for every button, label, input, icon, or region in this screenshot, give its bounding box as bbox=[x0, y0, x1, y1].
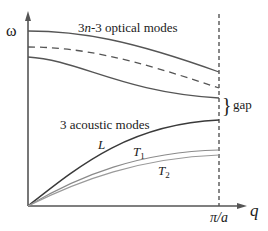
optical-branch-lower bbox=[28, 57, 219, 98]
acoustic-branches bbox=[28, 120, 219, 206]
optical-branches bbox=[28, 31, 219, 98]
branch-label-T1: T1 bbox=[133, 144, 145, 161]
acoustic-modes-label: 3 acoustic modes bbox=[60, 117, 150, 132]
branch-label-L: L bbox=[97, 137, 105, 152]
y-axis-arrow-icon bbox=[25, 11, 31, 21]
acoustic-branch-T2 bbox=[28, 155, 219, 206]
x-axis-label: q bbox=[250, 201, 259, 220]
phonon-dispersion-diagram: ω 3n-3 optical modes } gap 3 acoustic mo… bbox=[0, 0, 268, 231]
acoustic-branch-T1 bbox=[28, 150, 219, 206]
gap-brace: } bbox=[222, 94, 232, 116]
y-axis-label: ω bbox=[6, 22, 17, 39]
gap-label: gap bbox=[233, 97, 252, 112]
optical-branch-upper bbox=[28, 31, 219, 72]
zone-boundary-label: π/a bbox=[210, 210, 228, 225]
axes bbox=[25, 11, 247, 209]
branch-label-T2: T2 bbox=[158, 163, 170, 180]
optical-modes-label: 3n-3 optical modes bbox=[78, 20, 178, 35]
x-axis-arrow-icon bbox=[237, 203, 247, 209]
